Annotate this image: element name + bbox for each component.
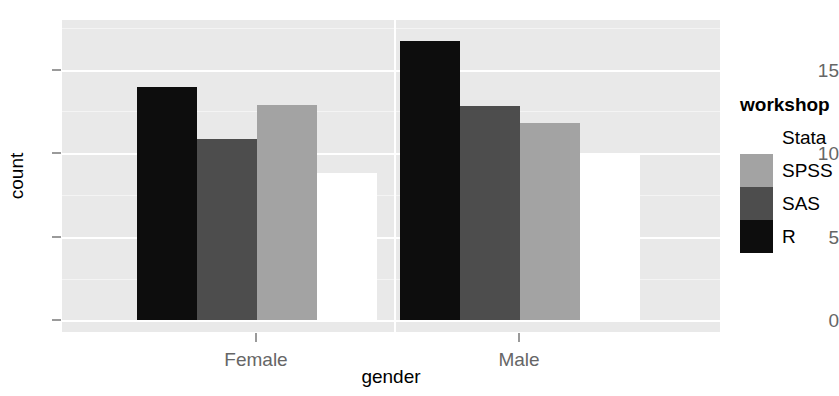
- gridline-major-x: [394, 20, 396, 332]
- y-tick-label-0: 0: [791, 311, 839, 330]
- x-tick-label-female: Female: [224, 350, 287, 369]
- legend: workshop Stata SPSS SAS R: [740, 95, 839, 253]
- legend-title: workshop: [740, 95, 839, 114]
- legend-label-stata: Stata: [782, 128, 826, 147]
- x-tick-label-male: Male: [498, 350, 539, 369]
- legend-item-sas[interactable]: SAS: [740, 187, 839, 220]
- legend-item-spss[interactable]: SPSS: [740, 154, 839, 187]
- legend-swatch-sas: [740, 187, 773, 220]
- legend-label-spss: SPSS: [782, 161, 833, 180]
- legend-swatch-r: [740, 220, 773, 253]
- bar-male-stata[interactable]: [580, 155, 640, 320]
- legend-item-r[interactable]: R: [740, 220, 839, 253]
- legend-item-stata[interactable]: Stata: [740, 121, 839, 154]
- legend-swatch-spss: [740, 154, 773, 187]
- x-tick-mark-male: [518, 333, 520, 342]
- y-tick-mark-15: [52, 69, 61, 71]
- gridline-minor-y: [62, 28, 720, 29]
- bar-female-spss[interactable]: [257, 105, 317, 320]
- legend-label-r: R: [782, 227, 796, 246]
- gridline-major-y-15: [62, 70, 720, 72]
- x-axis-title: gender: [361, 367, 420, 386]
- plot-panel: [62, 20, 720, 332]
- bar-female-sas[interactable]: [197, 139, 257, 320]
- gridline-major-y-0: [62, 320, 720, 322]
- bar-male-spss[interactable]: [520, 123, 580, 320]
- y-tick-mark-5: [52, 236, 61, 238]
- y-tick-label-15: 15: [791, 61, 839, 80]
- bar-male-r[interactable]: [400, 41, 460, 320]
- x-tick-mark-female: [255, 333, 257, 342]
- bar-female-r[interactable]: [137, 87, 197, 320]
- y-axis-title: count: [7, 153, 26, 199]
- y-tick-mark-0: [52, 319, 61, 321]
- chart-figure: 15 10 5 0 count Female Male gender works…: [0, 0, 839, 396]
- legend-label-sas: SAS: [782, 194, 820, 213]
- y-tick-mark-10: [52, 152, 61, 154]
- legend-swatch-stata: [740, 121, 773, 154]
- bar-female-stata[interactable]: [317, 173, 377, 320]
- bar-male-sas[interactable]: [460, 106, 520, 320]
